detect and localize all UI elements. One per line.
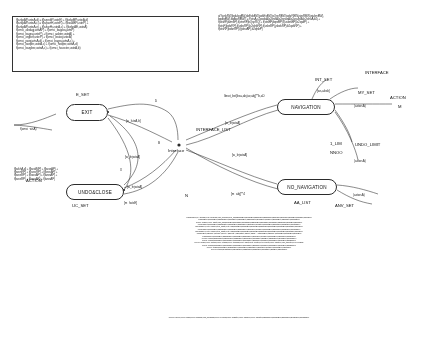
interface-hub-label: Interface	[168, 148, 184, 153]
node-no-navigation[interactable]: NO_NAVIGATION	[277, 179, 337, 195]
node-exit-label: EXIT	[81, 110, 92, 115]
label-uc-set: UC_SET	[72, 203, 89, 208]
node-exit[interactable]: EXIT	[66, 104, 108, 121]
label-anv-set: ANV_SET	[335, 203, 354, 208]
edge-label-14: lbnot_bst[bsa,abj,tw,abj]**b,aD	[224, 94, 265, 98]
diagram-canvas: f(bzkpAP,usteA,d) = f(bzprdtP,usteE) + f…	[0, 0, 443, 347]
edge-label-13: (astwsA)	[353, 193, 365, 197]
label-my-set: MY_SET	[358, 90, 375, 95]
edge-label-9: [m_abj]**4	[231, 192, 245, 196]
edge-label-6: [m_lwtsE]	[124, 201, 137, 205]
node-no-navigation-label: NO_NAVIGATION	[287, 185, 327, 190]
edge-label-5: [w_lnjwtsA]	[127, 185, 142, 189]
edge-label-11: (astwsA)	[354, 104, 366, 108]
edge-label-10: [ws,absb]	[317, 89, 330, 93]
label-interface-list: INTERFACE_LIST	[196, 127, 231, 132]
edge-label-15: X	[120, 168, 122, 172]
edge-label-3: D	[155, 99, 157, 103]
edge-label-16: B	[158, 141, 160, 145]
label-aa-list: AA_LIST	[294, 200, 311, 205]
equation-block-bottom2: f(omci_bzceR),omci_kgardi,omci_hwbrgaj,o…	[44, 316, 434, 318]
equation-block-bottom: f*(bzkmBW),bz_abcjagj,omci_kwapagj,omci_…	[60, 216, 438, 251]
node-navigation[interactable]: NAVIGATION	[277, 99, 335, 115]
label-interface-right: INTERFACE	[365, 70, 389, 75]
edge-label-7: [w_lejwtsA]	[225, 121, 240, 125]
node-undo-close[interactable]: UNDO&CLOSE	[66, 184, 124, 200]
equation-box-topleft: f(bzkpAP,usteA,d) = f(bzprdtP,usteE) + f…	[12, 16, 199, 72]
label-e-set: E_SET	[76, 92, 89, 97]
edge-label-12: (astwsA)	[354, 159, 366, 163]
node-undo-close-label: UNDO&CLOSE	[78, 190, 112, 195]
node-navigation-label: NAVIGATION	[291, 105, 321, 110]
label-undo-limit: UNDO_LIMIT	[355, 142, 380, 147]
label-int-set: INT_SET	[315, 77, 332, 82]
label-1-lim: 1_LIM	[330, 141, 342, 146]
edge-label-1: f(omci_wsA)	[20, 127, 37, 131]
edge-label-8: [w_lejwtsA]	[232, 153, 247, 157]
label-action-left: ACTION	[26, 178, 42, 183]
label-n: N	[185, 193, 188, 198]
equation-block-topright: at*/wnkRW,jbdukrqBW,jsbEdsBW,jsdsEsBW,js…	[218, 15, 438, 31]
edge-label-4: [w_lnjwtsA]	[125, 155, 140, 159]
label-nnoo: NNOO	[330, 150, 343, 155]
label-m-right: M	[398, 104, 402, 109]
equation-box-topleft-text: f(bzkpAP,usteA,d) = f(bzprdtP,usteE) + f…	[16, 19, 195, 50]
edge-label-2: [w_lsteA,b]	[126, 119, 141, 123]
label-action-right: ACTION	[390, 95, 406, 100]
